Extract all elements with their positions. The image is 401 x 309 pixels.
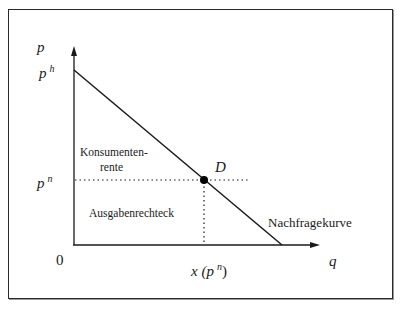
- x-axis-label: q: [329, 254, 337, 269]
- market-price-label: pn: [37, 176, 53, 191]
- equilibrium-point: [200, 176, 208, 184]
- consumer-surplus-label-2: rente: [100, 162, 123, 174]
- point-d-label: D: [215, 160, 226, 175]
- x-axis-arrow-icon: [310, 242, 320, 248]
- quantity-label: x (pn): [191, 264, 227, 279]
- y-axis-arrow-icon: [71, 46, 77, 56]
- consumer-surplus-label-1: Konsumenten-: [80, 147, 148, 159]
- expenditure-rectangle-label: Ausgabenrechteck: [89, 208, 174, 220]
- y-axis-label: p: [37, 40, 45, 55]
- origin-label: 0: [56, 253, 64, 268]
- high-price-label: ph: [39, 66, 55, 81]
- demand-curve-label: Nachfragekurve: [268, 216, 352, 229]
